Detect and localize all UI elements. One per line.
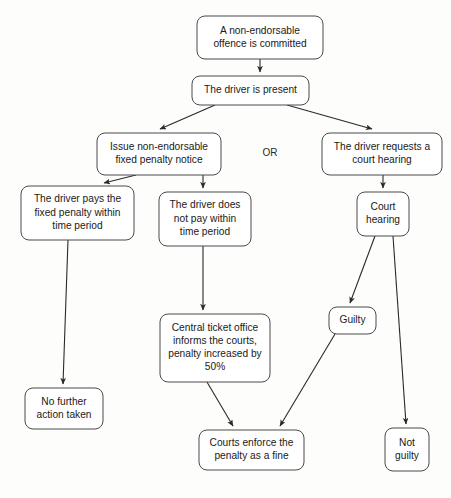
driver-pays-penalty-node-label: time period [52,220,103,231]
driver-pays-penalty-node-label: fixed penalty within [34,207,120,218]
no-further-action-node-label: action taken [37,409,92,420]
court-hearing-node-label: hearing [366,214,400,225]
not-guilty-node-label: guilty [395,450,420,461]
court-hearing-node-label: Court [371,201,396,212]
driver-does-not-pay-node-label: time period [180,226,231,237]
courts-enforce-penalty-node-label: penalty as a fine [214,450,289,461]
driver-requests-court-hearing-node: The driver requests acourt hearing [322,133,442,175]
central-ticket-office-node: Central ticket officeinforms the courts,… [160,314,270,382]
driver-requests-court-hearing-node-label: court hearing [352,154,412,165]
no-further-action-node-label: No further [41,396,87,407]
guilty-node: Guilty [329,307,376,334]
no-further-action-node: No furtheraction taken [25,388,103,429]
driver-present-node-label: The driver is present [204,84,297,95]
connector-central-ticket-to-courts-enforce [207,382,233,426]
courts-enforce-penalty-node: Courts enforce thepenalty as a fine [199,430,304,470]
offence-committed-node: A non-endorsableoffence is committed [197,16,323,59]
courts-enforce-penalty-node-label: Courts enforce the [210,437,294,448]
connector-driver-present-to-issue-notice [160,105,215,129]
central-ticket-office-node-label: 50% [205,361,225,372]
issue-fixed-penalty-notice-node-label: fixed penalty notice [115,154,203,165]
driver-does-not-pay-node: The driver doesnot pay withintime period [159,192,251,246]
issue-fixed-penalty-notice-node-label: Issue non-endorsable [110,141,208,152]
offence-committed-node-label: offence is committed [213,38,307,49]
issue-fixed-penalty-notice-node: Issue non-endorsablefixed penalty notice [97,133,221,175]
flowchart-page: A non-endorsableoffence is committedThe … [0,0,451,498]
node-layer: A non-endorsableoffence is committedThe … [21,16,442,471]
offence-committed-node-label: A non-endorsable [220,25,300,36]
connector-driver-present-to-court-request [287,105,372,129]
driver-pays-penalty-node: The driver pays thefixed penalty withint… [21,186,134,240]
connector-court-hearing-to-not-guilty [393,236,406,424]
connector-driver-pays-to-no-action [63,240,68,384]
not-guilty-node: Notguilty [385,428,429,471]
court-hearing-node: Courthearing [357,192,409,236]
central-ticket-office-node-label: Central ticket office [172,322,259,333]
central-ticket-office-node-label: informs the courts, [173,335,257,346]
central-ticket-office-node-label: penalty increased by [168,348,262,359]
connector-court-hearing-to-guilty [350,236,375,303]
connector-guilty-to-courts-enforce [280,334,335,426]
driver-present-node: The driver is present [192,76,309,105]
driver-does-not-pay-node-label: The driver does [170,199,241,210]
not-guilty-node-label: Not [399,437,415,448]
or-label: OR [263,147,278,158]
driver-pays-penalty-node-label: The driver pays the [34,193,122,204]
driver-requests-court-hearing-node-label: The driver requests a [334,141,431,152]
flowchart-canvas: A non-endorsableoffence is committedThe … [0,0,451,498]
connector-issue-notice-to-driver-pays [104,175,136,183]
guilty-node-label: Guilty [339,314,366,325]
driver-does-not-pay-node-label: not pay within [174,213,236,224]
